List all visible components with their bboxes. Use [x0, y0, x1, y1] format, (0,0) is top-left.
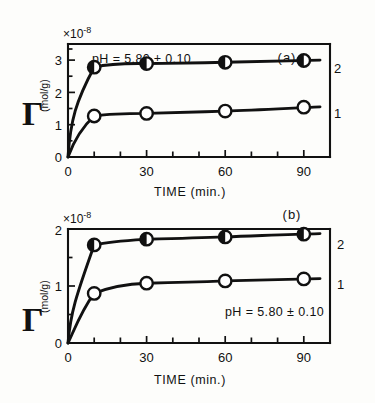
- figure-container: ×10-8 Γ (mol/g) 0 1 2 3: [0, 0, 375, 403]
- series-b-2-markers: [88, 228, 310, 251]
- y-tick-label-a-3: 3: [55, 53, 62, 68]
- x-tick-label-a-90: 90: [297, 164, 311, 179]
- x-tick-label-b-0: 0: [64, 350, 71, 365]
- x-tick-label-b-60: 60: [218, 350, 232, 365]
- x-tick-label-a-0: 0: [64, 164, 71, 179]
- panel-label-a: (a): [278, 50, 297, 65]
- x-tick-label-b-30: 30: [139, 350, 153, 365]
- x-tick-label-a-30: 30: [139, 164, 153, 179]
- y-tick-label-b-2: 2: [55, 223, 62, 238]
- y-exponent-b: ×10-8: [63, 210, 91, 226]
- x-tick-label-b-90: 90: [297, 350, 311, 365]
- series-a-1-label: 1: [334, 106, 341, 121]
- y-tick-label-b-0: 0: [55, 336, 62, 351]
- y-tick-label-a-2: 2: [55, 86, 62, 101]
- series-a-1-line: [68, 107, 320, 157]
- x-axis-title-a: TIME (min.): [154, 185, 226, 199]
- y-axis-units-a: (mol/g): [38, 79, 50, 112]
- series-a-2-label: 2: [334, 61, 341, 76]
- x-axis-title-b: TIME (min.): [154, 373, 226, 387]
- y-axis-units-b: (mol/g): [38, 280, 50, 313]
- y-tick-label-a-1: 1: [55, 118, 62, 133]
- ph-annotation-b: pH = 5.80 ± 0.10: [225, 305, 324, 319]
- panel-label-b: (b): [283, 207, 302, 222]
- y-tick-label-a-0: 0: [55, 150, 62, 165]
- chart-panel-a: ×10-8 Γ (mol/g) 0 1 2 3: [0, 0, 375, 201]
- y-exponent-a: ×10-8: [63, 25, 91, 41]
- panel-a-svg: ×10-8 Γ (mol/g) 0 1 2 3: [0, 0, 375, 201]
- y-tick-label-b-1: 1: [55, 279, 62, 294]
- chart-panel-b: ×10-8 Γ (mol/g) 0 1 2: [0, 201, 375, 402]
- series-b-2-label: 2: [337, 237, 344, 252]
- series-b-1-label: 1: [337, 277, 344, 292]
- x-tick-label-a-60: 60: [218, 164, 232, 179]
- panel-b-svg: ×10-8 Γ (mol/g) 0 1 2: [0, 201, 375, 403]
